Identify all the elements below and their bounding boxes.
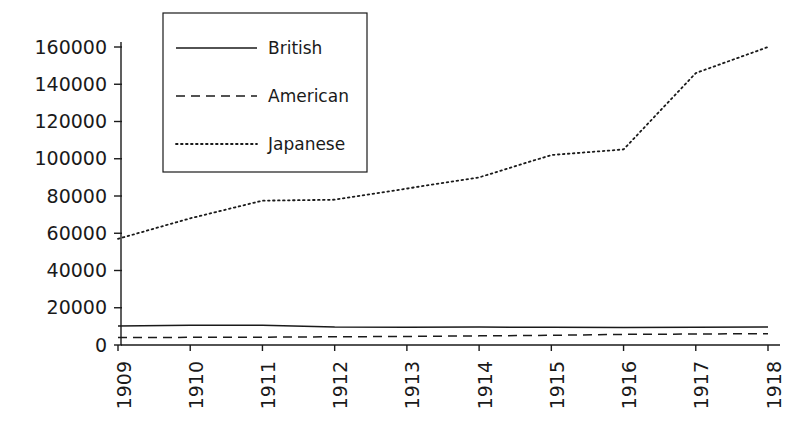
x-tick-label: 1911 xyxy=(257,361,279,409)
y-tick-label: 80000 xyxy=(47,185,107,207)
x-tick-label: 1910 xyxy=(185,361,207,409)
x-tick-label: 1913 xyxy=(401,361,423,409)
x-tick-label: 1912 xyxy=(329,361,351,409)
legend-label-american: American xyxy=(268,86,349,106)
y-tick-label: 60000 xyxy=(47,222,107,244)
x-tick-label: 1918 xyxy=(763,361,785,409)
chart-legend: BritishAmericanJapanese xyxy=(163,13,367,172)
y-tick-label: 100000 xyxy=(34,147,107,169)
x-tick-label: 1914 xyxy=(474,361,496,409)
x-tick-label: 1909 xyxy=(113,361,135,409)
x-tick-label: 1917 xyxy=(690,361,712,409)
legend-label-british: British xyxy=(268,38,322,58)
y-tick-label: 120000 xyxy=(34,110,107,132)
y-tick-label: 0 xyxy=(95,334,107,356)
chart-figure: 0200004000060000800001000001200001400001… xyxy=(0,0,806,430)
x-tick-label: 1915 xyxy=(546,361,568,409)
y-tick-label: 160000 xyxy=(34,36,107,58)
y-tick-label: 140000 xyxy=(34,73,107,95)
y-tick-label: 40000 xyxy=(47,259,107,281)
line-chart-svg: 0200004000060000800001000001200001400001… xyxy=(0,0,806,430)
legend-label-japanese: Japanese xyxy=(267,134,345,154)
y-tick-label: 20000 xyxy=(47,296,107,318)
x-tick-label: 1916 xyxy=(618,361,640,409)
